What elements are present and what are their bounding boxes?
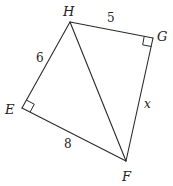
edge-he — [22, 22, 70, 108]
edge-ef — [22, 108, 126, 161]
diagonal-hf — [70, 22, 126, 161]
side-length-hg: 5 — [107, 11, 115, 25]
vertex-label-e: E — [4, 102, 15, 117]
side-length-he: 6 — [36, 51, 44, 65]
side-length-ef: 8 — [64, 137, 72, 151]
side-length-gf: x — [144, 97, 151, 111]
vertex-label-g: G — [157, 29, 167, 44]
vertex-label-h: H — [62, 4, 75, 19]
quadrilateral-diagram: H G E F 5 6 8 x — [0, 0, 173, 186]
vertex-label-f: F — [121, 169, 132, 184]
